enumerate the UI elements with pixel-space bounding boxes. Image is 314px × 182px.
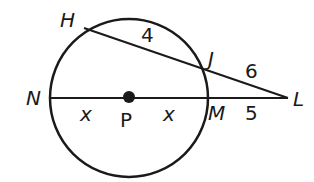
center-point-p (123, 91, 135, 103)
segment-label-jl: 6 (245, 59, 258, 83)
segment-label-ml: 5 (245, 101, 258, 125)
segment-label-hj: 4 (141, 23, 154, 47)
label-p: P (120, 108, 132, 132)
label-j: J (204, 47, 214, 71)
label-h: H (60, 8, 75, 32)
label-l: L (293, 87, 304, 111)
label-m: M (208, 101, 225, 125)
segment-label-np: x (79, 102, 92, 126)
segment-label-pm: x (162, 102, 175, 126)
diagram-canvas: H J N M L P 4 6 5 x x (0, 0, 314, 182)
label-n: N (26, 86, 41, 110)
